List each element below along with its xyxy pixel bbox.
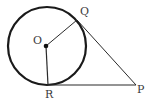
label-r: R	[45, 88, 54, 100]
label-q: Q	[80, 5, 89, 18]
radius-or	[46, 46, 48, 85]
tangent-circle-diagram: O Q R P	[0, 0, 151, 100]
radius-oq	[46, 20, 77, 46]
label-p: P	[137, 83, 145, 96]
label-o: O	[33, 34, 42, 47]
center-point-o	[44, 44, 49, 49]
